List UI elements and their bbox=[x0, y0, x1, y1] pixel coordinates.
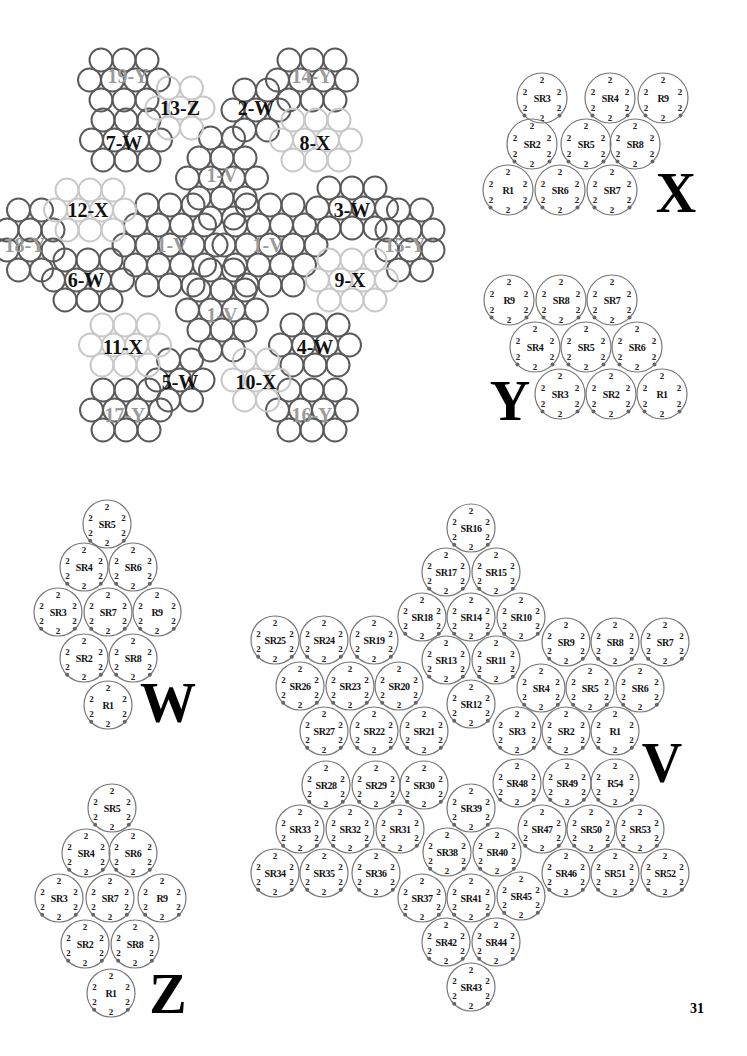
bead-count: 2 bbox=[644, 103, 649, 113]
bead-count: 2 bbox=[307, 789, 312, 799]
bead-count: 2 bbox=[380, 690, 385, 700]
bead-count: 2 bbox=[469, 718, 474, 728]
bead-count: 2 bbox=[305, 735, 310, 745]
bead-count: 2 bbox=[403, 887, 408, 897]
bead bbox=[56, 219, 79, 242]
bead bbox=[278, 89, 301, 112]
bead-count: 2 bbox=[646, 631, 651, 641]
bead-count: 2 bbox=[511, 856, 516, 866]
bead-count: 2 bbox=[556, 818, 561, 828]
bead-count: 2 bbox=[541, 179, 546, 189]
bead-count: 2 bbox=[626, 399, 631, 409]
bead-count: 2 bbox=[114, 556, 119, 566]
bead-count: 2 bbox=[654, 692, 659, 702]
bead-dot bbox=[114, 673, 118, 677]
bead-dot bbox=[355, 746, 359, 750]
motif-letter: V bbox=[642, 732, 682, 794]
bead-count: 2 bbox=[609, 409, 614, 419]
bead-count: 2 bbox=[610, 315, 615, 325]
ring-label: SR4 bbox=[76, 562, 93, 573]
bead-count: 2 bbox=[72, 616, 77, 626]
bead-count: 2 bbox=[531, 772, 536, 782]
ring-label: SR3 bbox=[534, 93, 551, 104]
bead-dot bbox=[123, 627, 127, 631]
bead-dot bbox=[655, 703, 659, 707]
bead-dot bbox=[281, 844, 285, 848]
bead-dot bbox=[88, 539, 92, 543]
bead-count: 2 bbox=[256, 629, 261, 639]
bead-dot bbox=[380, 701, 384, 705]
bead-dot bbox=[596, 746, 600, 750]
bead-count: 2 bbox=[605, 833, 610, 843]
bead-dot bbox=[365, 844, 369, 848]
bead-count: 2 bbox=[427, 649, 432, 659]
bead-count: 2 bbox=[550, 336, 555, 346]
bead-count: 2 bbox=[485, 902, 490, 912]
bead-count: 2 bbox=[593, 305, 598, 315]
bead-count: 2 bbox=[469, 965, 474, 975]
motif-x-diagram: SR3222222SR4222222R9222222SR2222222SR522… bbox=[483, 73, 696, 224]
bead-count: 2 bbox=[397, 664, 402, 674]
bead-count: 2 bbox=[109, 971, 114, 981]
bead-dot bbox=[644, 114, 648, 118]
bead bbox=[102, 219, 125, 242]
bead-count: 2 bbox=[610, 277, 615, 287]
ring-label: SR7 bbox=[100, 607, 117, 618]
bead-count: 2 bbox=[67, 842, 72, 852]
bead-count: 2 bbox=[629, 720, 634, 730]
bead-dot bbox=[66, 959, 70, 963]
ring-label: SR42 bbox=[436, 937, 457, 948]
motif-letter: W bbox=[140, 672, 196, 734]
overview-label: 14-Y bbox=[291, 65, 333, 87]
bead-count: 2 bbox=[530, 121, 535, 131]
bead-count: 2 bbox=[558, 409, 563, 419]
bead-count: 2 bbox=[99, 948, 104, 958]
ring-label: SR36 bbox=[366, 868, 387, 879]
bead-count: 2 bbox=[364, 833, 369, 843]
bead-dot bbox=[486, 913, 490, 917]
ring-label: SR11 bbox=[486, 655, 507, 666]
bead-count: 2 bbox=[661, 113, 666, 123]
ring-label: SR2 bbox=[76, 653, 93, 664]
bead-dot bbox=[439, 746, 443, 750]
bead-dot bbox=[357, 800, 361, 804]
bead-count: 2 bbox=[661, 75, 666, 85]
bead-count: 2 bbox=[82, 581, 87, 591]
bead-count: 2 bbox=[477, 649, 482, 659]
bead-count: 2 bbox=[460, 576, 465, 586]
bead-count: 2 bbox=[654, 818, 659, 828]
bead-count: 2 bbox=[40, 902, 45, 912]
ring-label: SR6 bbox=[629, 342, 646, 353]
bead-dot bbox=[126, 1008, 130, 1012]
bead-dot bbox=[290, 655, 294, 659]
ring-label: SR2 bbox=[558, 726, 575, 737]
bead-count: 2 bbox=[114, 647, 119, 657]
bead-count: 2 bbox=[485, 693, 490, 703]
bead-dot bbox=[331, 701, 335, 705]
bead-count: 2 bbox=[485, 887, 490, 897]
bead-dot bbox=[127, 823, 131, 827]
bead-count: 2 bbox=[381, 818, 386, 828]
bead-count: 2 bbox=[495, 866, 500, 876]
bead-count: 2 bbox=[629, 631, 634, 641]
bead-count: 2 bbox=[364, 818, 369, 828]
ring-label: SR6 bbox=[632, 683, 649, 694]
bead-count: 2 bbox=[522, 677, 527, 687]
bead-dot bbox=[616, 160, 620, 164]
bead-count: 2 bbox=[452, 902, 457, 912]
bead-dot bbox=[680, 657, 684, 661]
bead-count: 2 bbox=[298, 843, 303, 853]
bead-count: 2 bbox=[422, 709, 427, 719]
bead-count: 2 bbox=[542, 289, 547, 299]
bead-count: 2 bbox=[485, 976, 490, 986]
bead-dot bbox=[67, 868, 71, 872]
bead-count: 2 bbox=[469, 682, 474, 692]
bead-count: 2 bbox=[584, 159, 589, 169]
bead-count: 2 bbox=[452, 606, 457, 616]
bead-count: 2 bbox=[558, 205, 563, 215]
bead-count: 2 bbox=[589, 807, 594, 817]
bead-count: 2 bbox=[114, 662, 119, 672]
bead-count: 2 bbox=[494, 586, 499, 596]
bead-count: 2 bbox=[452, 812, 457, 822]
ring-label: SR28 bbox=[316, 780, 337, 791]
